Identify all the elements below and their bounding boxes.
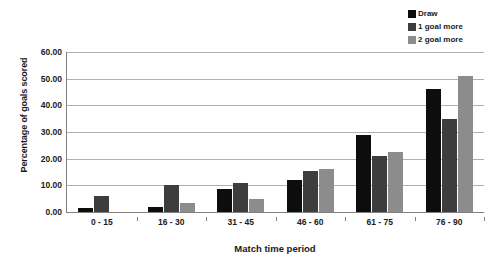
bar [78, 208, 93, 212]
legend-item: 1 goal more [408, 21, 496, 32]
legend-swatch-icon [408, 23, 416, 31]
gridline [67, 79, 484, 80]
x-axis-ticks: 0 - 1516 - 3031 - 4546 - 6061 - 7576 - 9… [67, 217, 484, 233]
legend-label: 2 goal more [418, 35, 463, 44]
x-tick-label: 31 - 45 [206, 217, 276, 227]
bar [217, 189, 232, 212]
bar [148, 207, 163, 212]
bar-chart: Draw1 goal more2 goal more Percentage of… [0, 0, 499, 272]
gridline [67, 159, 484, 160]
bar-group [356, 52, 403, 212]
gridline [67, 105, 484, 106]
bar-group [426, 52, 473, 212]
gridline [67, 185, 484, 186]
y-tick-label: 30.00 [18, 127, 62, 137]
bar [287, 180, 302, 212]
x-axis-title: Match time period [60, 243, 490, 254]
bar [372, 156, 387, 212]
bar [319, 169, 334, 212]
bar [426, 89, 441, 212]
x-tick-label: 16 - 30 [137, 217, 207, 227]
bar [458, 76, 473, 212]
x-axis-line [66, 212, 484, 213]
bar-group [148, 52, 195, 212]
bar [233, 183, 248, 212]
x-tick-label: 46 - 60 [276, 217, 346, 227]
bar [180, 203, 195, 212]
legend-label: Draw [418, 9, 438, 18]
x-tick-label: 0 - 15 [67, 217, 137, 227]
x-tick-mark [484, 217, 485, 221]
gridline [67, 52, 484, 53]
bar [356, 135, 371, 212]
bar [164, 185, 179, 212]
bar [249, 199, 264, 212]
bar [303, 171, 318, 212]
legend-item: Draw [408, 8, 496, 19]
gridline [67, 132, 484, 133]
y-tick-label: 10.00 [18, 180, 62, 190]
legend-label: 1 goal more [418, 22, 463, 31]
x-tick-label: 76 - 90 [415, 217, 485, 227]
y-tick-label: 0.00 [18, 207, 62, 217]
bar [388, 152, 403, 212]
bar-group [287, 52, 334, 212]
y-axis-ticks: 0.0010.0020.0030.0040.0050.0060.00 [14, 52, 62, 212]
y-tick-label: 40.00 [18, 100, 62, 110]
bar-group [78, 52, 125, 212]
bar [442, 119, 457, 212]
plot-area [67, 52, 484, 212]
bar-group [217, 52, 264, 212]
legend-swatch-icon [408, 10, 416, 18]
y-tick-label: 60.00 [18, 47, 62, 57]
legend-item: 2 goal more [408, 34, 496, 45]
chart-legend: Draw1 goal more2 goal more [408, 8, 496, 47]
x-tick-label: 61 - 75 [345, 217, 415, 227]
y-tick-label: 50.00 [18, 74, 62, 84]
bar [94, 196, 109, 212]
legend-swatch-icon [408, 36, 416, 44]
y-tick-label: 20.00 [18, 154, 62, 164]
